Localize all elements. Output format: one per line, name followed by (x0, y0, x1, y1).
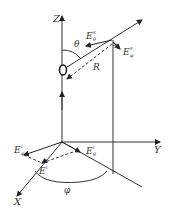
svg-text:θ: θ (93, 36, 96, 42)
svg-text:E: E (122, 47, 130, 57)
incident-phi-label: E i φ (13, 143, 25, 157)
svg-text:φ: φ (130, 52, 134, 59)
svg-text:E: E (85, 146, 93, 156)
scattered-theta-label: E s θ (85, 29, 96, 42)
incident-dash-1 (24, 155, 42, 163)
svg-text:s: s (93, 29, 96, 35)
svg-text:θ: θ (93, 151, 96, 157)
incident-field-label: E i (38, 164, 48, 176)
x-axis-label: X (13, 196, 22, 207)
theta-arc (62, 50, 80, 58)
phi-arc (35, 171, 107, 183)
z-axis-label: Z (52, 13, 61, 24)
svg-text:i: i (46, 164, 48, 170)
svg-text:E: E (38, 166, 46, 176)
svg-text:s: s (130, 45, 133, 51)
theta-label: θ (74, 39, 80, 49)
phi-label: φ (64, 185, 71, 195)
incident-dash-2 (42, 152, 73, 163)
incident-arrow (62, 142, 80, 152)
origin-scatterer (60, 65, 67, 75)
scattering-geometry-diagram: Z Y X θ φ R E s θ E s φ E i φ E i θ E i (0, 0, 173, 210)
r-label: R (92, 62, 100, 72)
svg-text:i: i (21, 143, 23, 149)
svg-text:E: E (13, 145, 21, 155)
incident-theta-label: E i θ (85, 144, 96, 157)
svg-text:E: E (85, 31, 93, 41)
y-axis-label: Y (154, 144, 162, 155)
svg-text:i: i (93, 144, 95, 150)
r-distance-arrow (67, 44, 112, 79)
svg-text:φ: φ (21, 150, 25, 157)
scattered-phi-label: E s φ (122, 45, 134, 59)
